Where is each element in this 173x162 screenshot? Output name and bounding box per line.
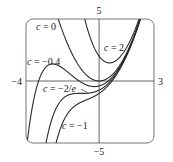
curve-series-0 xyxy=(26,0,154,81)
x-max-tick: 3 xyxy=(158,76,163,87)
y-min-tick: −5 xyxy=(94,146,105,157)
chart-plot: 5 −5 −4 3 c = 0 c = 2 c = −0.4 c = −2/e … xyxy=(0,0,173,162)
label-c-neg0.4: c = −0.4 xyxy=(27,56,60,67)
label-c-0: c = 0 xyxy=(36,21,56,32)
x-min-tick: −4 xyxy=(11,76,22,87)
label-leader-line xyxy=(81,89,88,93)
label-c-neg2-over-e: c = −2/e xyxy=(43,83,77,94)
label-c-neg1: c = −1 xyxy=(62,120,88,131)
label-c-2: c = 2 xyxy=(104,42,124,53)
y-max-tick: 5 xyxy=(97,5,102,16)
